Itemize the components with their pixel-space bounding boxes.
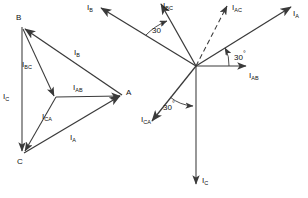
left-phasor-sub-IB: B: [76, 52, 80, 58]
right-phasor-label-ICA: ICA: [141, 116, 151, 124]
right-vector-IB: [101, 8, 196, 66]
right-phasor-label-IA: IA: [293, 10, 299, 18]
right-angle-value-ca-c: 30: [163, 103, 172, 112]
left-vertex-label-A: A: [126, 89, 131, 97]
left-phasor-sub-IC: C: [5, 96, 9, 102]
right-vector-IBC: [161, 4, 196, 66]
right-phasor-label-IB: IB: [87, 4, 93, 12]
right-phasor-label-IC: IC: [202, 177, 208, 185]
left-phasor-label-IC: IC: [3, 93, 9, 101]
left-phasor-label-IAB: IAB: [73, 84, 83, 92]
left-phasor-label-IB: IB: [74, 49, 80, 57]
right-phasor-label-IAC: IAC: [232, 4, 242, 12]
right-angle-value-b-bc: 30: [152, 26, 161, 35]
right-phasor-sub-IAC: AC: [234, 7, 242, 13]
left-vector-IA: [24, 96, 120, 153]
left-phasor-sub-IBC: BC: [24, 64, 32, 70]
left-vertex-label-C: C: [17, 158, 23, 166]
left-vertex-label-B: B: [16, 14, 21, 22]
right-angle-value-a-ab: 30: [234, 53, 243, 62]
right-angle-label-ca-c: 30°: [163, 100, 175, 112]
right-phasor-sub-IB: B: [89, 7, 93, 13]
right-angle-arc-a-ab: [225, 48, 229, 66]
right-angle-label-b-bc: 30°: [152, 23, 164, 35]
left-phasor-label-ICA: ICA: [42, 113, 52, 121]
right-phasor-label-IBC: IBC: [163, 2, 173, 10]
right-angle-label-a-ab: 30°: [234, 50, 246, 62]
right-phasor-sub-IC: C: [204, 180, 208, 186]
right-angle-degree-b-bc: °: [161, 23, 164, 30]
right-angle-degree-ca-c: °: [172, 100, 175, 107]
right-phasor-label-IAB: IAB: [249, 72, 259, 80]
right-phasor-sub-IBC: BC: [165, 5, 173, 11]
phasor-diagram-figure: A B C IB IBC IC IAB ICA IA IB IBC IAC IA…: [0, 0, 308, 198]
left-phasor-label-IBC: IBC: [22, 61, 32, 69]
right-angle-degree-a-ab: °: [243, 50, 246, 57]
left-phasor-sub-IA: A: [72, 137, 76, 143]
left-phasor-label-IA: IA: [70, 134, 76, 142]
right-phasor-sub-IAB: AB: [251, 75, 258, 81]
left-phasor-sub-ICA: CA: [44, 116, 52, 122]
left-vector-IAB: [56, 96, 120, 97]
right-phasor-sub-IA: A: [295, 13, 299, 19]
right-phasor-sub-ICA: CA: [143, 119, 151, 125]
left-phasor-sub-IAB: AB: [75, 87, 82, 93]
right-vector-ICA: [152, 66, 196, 121]
